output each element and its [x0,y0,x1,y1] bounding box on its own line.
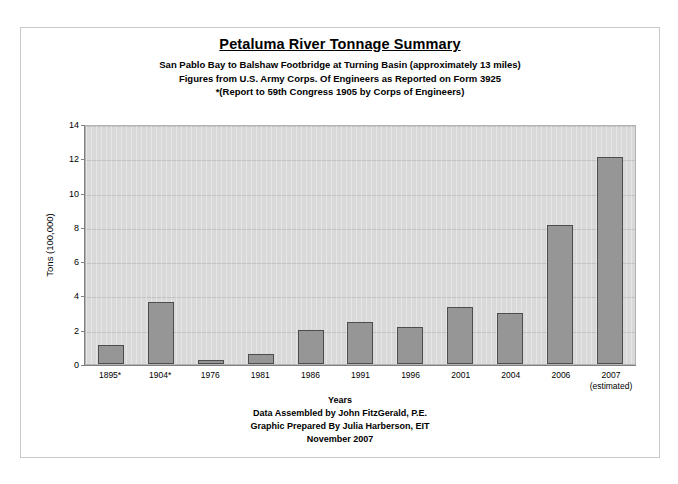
chart-page: Petaluma River Tonnage Summary San Pablo… [0,0,678,484]
x-tick-label: 1976 [185,370,235,392]
credit-date: November 2007 [20,433,660,446]
bar-2007 [597,157,623,364]
bar-slot [136,126,186,364]
x-tick-label: 2001 [436,370,486,392]
x-axis-labels: 1895*1904*197619811986199119962001200420… [85,370,636,392]
x-tick-label-text: 1981 [251,370,270,380]
x-tick-sublabel: (estimated) [586,381,636,392]
x-tick-label: 1991 [335,370,385,392]
y-tick-label: 2 [74,326,79,335]
x-axis-line [85,365,636,366]
y-tick-mark [81,159,85,160]
x-tick-label: 1996 [386,370,436,392]
x-tick-label-text: 1976 [201,370,220,380]
y-tick-label: 6 [74,258,79,267]
x-tick-label: 1986 [285,370,335,392]
x-tick-label-text: 2007 [602,370,621,380]
credit-data-assembled: Data Assembled by John FitzGerald, P.E. [20,407,660,420]
bar-slot [535,126,585,364]
x-tick-label: 2004 [486,370,536,392]
y-tick-mark [81,296,85,297]
x-tick-label-text: 1895* [99,370,121,380]
bar-slot [385,126,435,364]
y-tick-label: 0 [74,361,79,370]
bar-2001 [447,307,473,364]
bar-1981 [248,354,274,364]
x-tick-label-text: 1986 [301,370,320,380]
bar-1996 [397,327,423,364]
y-tick-mark [81,262,85,263]
x-tick-label: 1981 [235,370,285,392]
y-tick-mark [81,125,85,126]
y-tick-label: 14 [69,121,79,130]
footer-block: Years Data Assembled by John FitzGerald,… [20,394,660,446]
chart-title: Petaluma River Tonnage Summary [20,36,660,52]
bar-slot [336,126,386,364]
y-tick-label: 12 [69,155,79,164]
subtitle-line-2: Figures from U.S. Army Corps. Of Enginee… [20,72,660,86]
plot-area [85,125,636,365]
bar-1991 [347,322,373,364]
y-tick-mark [81,331,85,332]
bar-slot [236,126,286,364]
title-block: Petaluma River Tonnage Summary San Pablo… [20,36,660,99]
bar-1976 [198,360,224,364]
bar-slot [186,126,236,364]
plot-wrapper: 02468101214 [85,125,636,365]
x-tick-label: 1895* [85,370,135,392]
x-tick-label-text: 2004 [501,370,520,380]
bar-2004 [497,313,523,364]
bar-slot [286,126,336,364]
bar-slot [435,126,485,364]
x-tick-label: 2006 [536,370,586,392]
bar-1895 [98,345,124,364]
y-tick-label: 10 [69,189,79,198]
y-tick-label: 4 [74,292,79,301]
x-tick-label-text: 2006 [551,370,570,380]
y-tick-mark [81,194,85,195]
subtitle-line-1: San Pablo Bay to Balshaw Footbridge at T… [20,58,660,72]
x-tick-label: 1904* [135,370,185,392]
x-tick-label: 2007(estimated) [586,370,636,392]
y-tick-mark [81,365,85,366]
y-axis-title: Tons (100,000) [44,125,56,365]
y-tick-label: 8 [74,223,79,232]
x-tick-label-text: 1991 [351,370,370,380]
bar-2006 [547,225,573,364]
subtitle-line-3: *(Report to 59th Congress 1905 by Corps … [20,85,660,99]
x-tick-label-text: 1904* [149,370,171,380]
x-axis-title: Years [20,394,660,407]
credit-graphic-prepared: Graphic Prepared By Julia Harberson, EIT [20,420,660,433]
y-tick-mark [81,228,85,229]
x-tick-label-text: 1996 [401,370,420,380]
bar-slot [86,126,136,364]
bar-slot [485,126,535,364]
bar-1904 [148,302,174,364]
x-tick-label-text: 2001 [451,370,470,380]
bar-slot [585,126,635,364]
bar-series [86,126,635,364]
bar-1986 [298,330,324,364]
